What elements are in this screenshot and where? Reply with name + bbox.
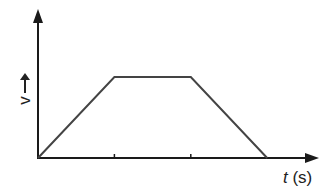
y-axis-label: v	[16, 72, 34, 108]
x-axis-label: t (s)	[283, 168, 312, 188]
x-axis-arrowhead-icon	[305, 153, 319, 163]
y-axis-variable: v	[15, 96, 35, 105]
y-axis-arrow-icon	[24, 75, 26, 93]
y-axis-arrowhead-icon	[33, 9, 43, 23]
x-axis-unit: (s)	[288, 168, 313, 187]
velocity-line	[38, 77, 267, 158]
velocity-time-chart	[0, 0, 322, 191]
